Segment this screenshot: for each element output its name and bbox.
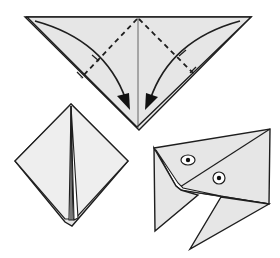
step-1-triangle (25, 17, 251, 130)
lower-jaw (190, 197, 269, 249)
triangle-front-layer (27, 17, 251, 127)
step-2-diamond (15, 104, 128, 226)
origami-diagram (0, 0, 280, 258)
right-pupil (217, 176, 221, 180)
left-pupil (186, 158, 190, 162)
step-3-head (154, 129, 270, 249)
